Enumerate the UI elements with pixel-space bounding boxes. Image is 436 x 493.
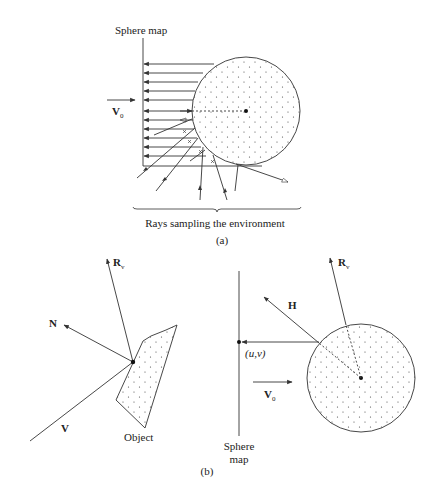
brace [133,207,301,212]
view-vector-a-label: V0 [112,106,123,120]
uv-point [237,340,241,344]
caption-a: Rays sampling the environment [145,218,285,229]
ray-arrowheads [143,167,227,193]
rv-subscript-right: v [346,263,350,271]
view-vector-label-b: V [61,423,69,434]
object-label: Object [124,432,153,443]
diagram-canvas [0,0,436,493]
object-polygon [116,325,177,428]
panel-label-a: (a) [216,235,228,246]
rv-symbol-left: R [113,256,121,268]
sphere-map-label-a: Sphere map [115,25,167,36]
surface-point [131,360,135,364]
uv-label: (u,v) [245,348,265,359]
view-vector-b-label: V0 [264,389,275,403]
halfway-vector-label: H [288,300,297,311]
panel-b-left [30,259,177,441]
v0-subscript-b: 0 [272,395,276,403]
reflection-vector-label-right: Rv [338,257,349,271]
v0-symbol-b: V [264,388,272,400]
normal-vector-label: N [49,318,57,329]
sphere-map-label-b-line2: map [230,454,249,465]
rv-symbol-right: R [338,256,346,268]
sphere-map-label-b-line1: Sphere [224,441,255,452]
v0-symbol: V [112,105,120,117]
panel-a [107,38,301,212]
grazing-ray [236,164,288,182]
normal-vector-arrow [64,325,133,362]
sphere-center-a [244,109,248,113]
reflection-vector-arrow-left [107,259,133,362]
rv-subscript-left: v [121,263,125,271]
panel-label-b: (b) [201,466,214,477]
v0-subscript: 0 [120,112,124,120]
reflection-vector-label-left: Rv [113,257,124,271]
